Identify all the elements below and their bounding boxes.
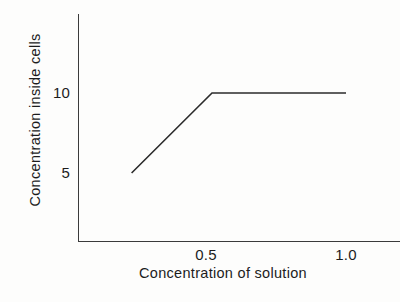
y-axis-line (78, 14, 79, 242)
x-tick-label-1-0: 1.0 (316, 246, 376, 263)
x-tick-label-0-5: 0.5 (176, 246, 236, 263)
x-axis-title: Concentration of solution (78, 265, 368, 281)
data-line-uptake (132, 93, 346, 173)
y-axis-title: Concentration inside cells (27, 10, 43, 230)
x-axis-line (78, 241, 400, 242)
chart-figure: 10 5 0.5 1.0 Concentration of solution C… (0, 0, 400, 302)
